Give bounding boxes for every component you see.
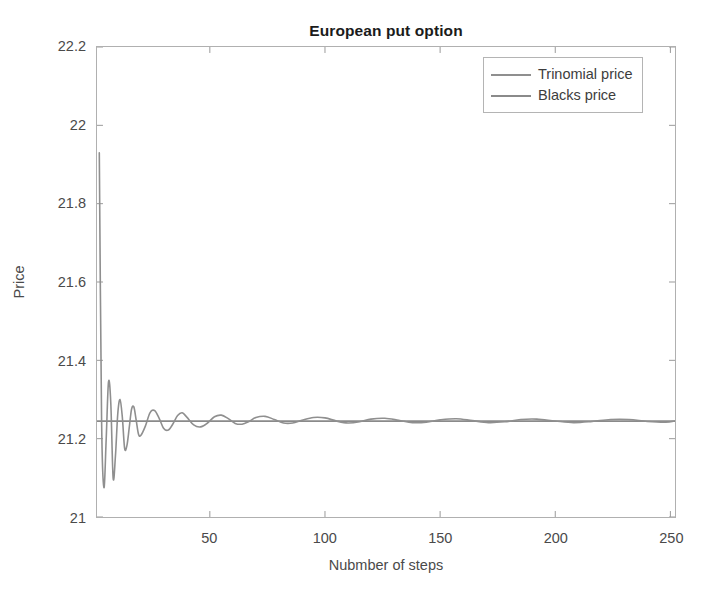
y-tick-label: 21.4 [58,353,86,369]
x-tick-label: 150 [428,530,452,546]
x-tick-label: 100 [313,530,337,546]
y-tick-label: 21.2 [58,431,86,447]
plot-area [96,46,676,518]
figure-canvas: European put option 2121.221.421.621.822… [0,0,706,607]
legend: Trinomial priceBlacks price [483,57,643,113]
x-tick-label: 200 [544,530,568,546]
y-axis-label: Price [11,265,27,298]
legend-item[interactable]: Trinomial price [491,64,633,85]
page-title: European put option [96,22,676,40]
y-axis: 2121.221.421.621.82222.2 [0,0,96,607]
series-lines [97,47,675,517]
x-tick-label: 250 [659,530,683,546]
legend-item-label: Blacks price [538,88,616,103]
legend-item[interactable]: Blacks price [491,85,633,106]
y-tick-label: 21.6 [58,274,86,290]
y-tick-label: 22 [70,117,86,133]
y-tick-label: 21.8 [58,195,86,211]
legend-line-swatch [491,95,531,97]
legend-item-label: Trinomial price [538,67,633,82]
x-axis-label: Nubmber of steps [329,557,443,573]
series-line [99,153,675,488]
legend-line-swatch [491,74,531,76]
x-tick-label: 50 [201,530,217,546]
y-tick-label: 22.2 [58,38,86,54]
